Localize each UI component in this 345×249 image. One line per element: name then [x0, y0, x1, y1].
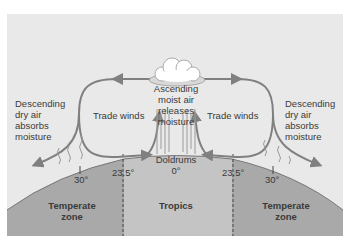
label-line: dry air: [15, 109, 65, 120]
label-line: absorbs: [15, 120, 65, 131]
zone-line: zone: [251, 211, 321, 222]
doldrums-text: Doldrums: [149, 154, 203, 165]
zone-line: Temperate: [251, 200, 321, 211]
label-line: Ascending: [147, 83, 205, 94]
label-left-descending: Descending dry air absorbs moisture: [15, 98, 65, 142]
label-line: Descending: [285, 98, 335, 109]
cloud-icon: [149, 58, 205, 86]
label-trade-winds-left: Trade winds: [93, 110, 144, 121]
label-center-ascending: Ascending moist air releases moisture: [147, 83, 205, 127]
label-line: releases: [147, 105, 205, 116]
zone-left-temperate: Temperate zone: [37, 200, 107, 222]
earth-temperate-left: [7, 159, 124, 236]
zone-tropics: Tropics: [147, 200, 205, 211]
zone-right-temperate: Temperate zone: [251, 200, 321, 222]
latitude-right-30: 30°: [265, 174, 279, 185]
equator-degree: 0°: [149, 165, 203, 176]
zone-line: Tropics: [147, 200, 205, 211]
latitude-left-30: 30°: [74, 174, 88, 185]
label-line: moisture: [285, 131, 335, 142]
label-line: dry air: [285, 109, 335, 120]
latitude-left-23-5: 23.5°: [112, 167, 134, 178]
label-right-descending: Descending dry air absorbs moisture: [285, 98, 335, 142]
label-doldrums: Doldrums 0°: [149, 154, 203, 176]
diagram-panel: Descending dry air absorbs moisture Desc…: [7, 14, 343, 236]
label-trade-winds-right: Trade winds: [207, 110, 258, 121]
label-line: absorbs: [285, 120, 335, 131]
label-line: Descending: [15, 98, 65, 109]
zone-line: zone: [37, 211, 107, 222]
label-line: moist air: [147, 94, 205, 105]
latitude-right-23-5: 23.5°: [222, 167, 244, 178]
label-line: moisture: [15, 131, 65, 142]
zone-line: Temperate: [37, 200, 107, 211]
label-line: moisture: [147, 116, 205, 127]
